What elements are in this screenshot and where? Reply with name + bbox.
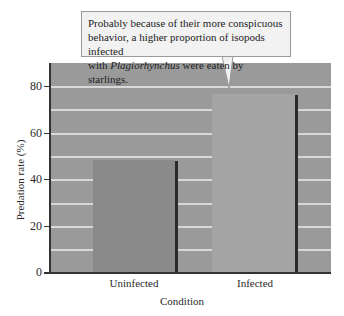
annotation-line-3: with Plagiorhynchus were eaten by starli…	[88, 58, 284, 86]
annotation-line-1: Probably because of their more conspicuo…	[88, 16, 284, 30]
annotation-callout: Probably because of their more conspicuo…	[81, 11, 291, 57]
annotation-line-3-prefix: with	[88, 59, 110, 71]
annotation-species-name: Plagiorhynchus	[110, 59, 179, 71]
annotation-line-2: behavior, a higher proportion of isopods…	[88, 30, 284, 58]
